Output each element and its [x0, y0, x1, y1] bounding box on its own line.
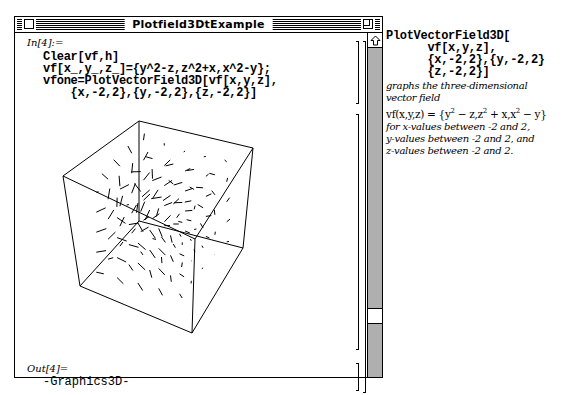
side-panel: PlotVectorField3D[ vf[x,y,z], {x,-2,2},{…	[386, 30, 582, 157]
notebook-content: In[4]:= Clear[vf,h] vf[x_,y_,z_]={y^2-z,…	[15, 33, 369, 377]
side-desc-4: y-values between -2 and 2, and	[386, 133, 582, 145]
notebook-window: Plotfield3DtExample In[4]:= Clear[vf,h] …	[14, 16, 383, 378]
scroll-thumb[interactable]	[368, 308, 382, 324]
scroll-up-arrow-icon[interactable]	[368, 33, 382, 48]
graphics-cell-bracket[interactable]	[356, 114, 359, 350]
output-cell-bracket[interactable]	[356, 363, 359, 391]
vector-arrows	[96, 134, 230, 298]
side-desc-1: graphs the three-dimensional	[386, 80, 582, 92]
window-title: Plotfield3DtExample	[124, 17, 273, 32]
side-code-line-4: {z,-2,2}]	[386, 66, 582, 78]
group-cell-bracket[interactable]	[363, 41, 366, 393]
side-desc-5: z-values between -2 and 2.	[386, 145, 582, 157]
vector-field-3d-plot[interactable]	[15, 33, 369, 363]
output-value: -Graphics3D-	[43, 376, 129, 388]
side-desc-2: vector field	[386, 92, 582, 104]
output-label: Out[4]=	[27, 363, 68, 374]
input-cell-bracket[interactable]	[356, 41, 359, 104]
side-desc-3: for x-values between -2 and 2,	[386, 121, 582, 133]
vertical-scrollbar[interactable]	[367, 33, 382, 377]
zoom-box-icon[interactable]	[363, 19, 373, 29]
side-formula: vf(x,y,z) = {y2 − z,z2 + x,x2 − y}	[386, 104, 582, 121]
close-box-icon[interactable]	[24, 19, 34, 29]
cube-wireframe	[63, 121, 253, 333]
title-bar[interactable]: Plotfield3DtExample	[15, 17, 382, 33]
